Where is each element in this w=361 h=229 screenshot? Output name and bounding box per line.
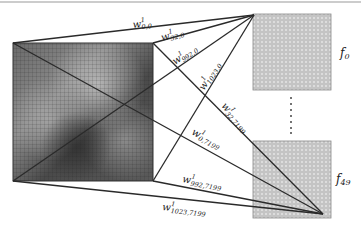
label-w-32-7199: w132,7199 [218, 99, 252, 136]
weight-connection-diagram: w10,0 w132,0 w1992,0 w11023,0 w132,7199 … [0, 0, 361, 229]
label-w-0-0: w10,0 [132, 15, 153, 32]
input-image [13, 43, 153, 181]
label-f0: f0 [339, 46, 350, 61]
label-w-0-7199: w10,7199 [189, 124, 224, 152]
label-w-992-7199: w1992,7199 [181, 171, 223, 193]
ellipsis-dots [290, 97, 292, 134]
feature-map-f49 [253, 141, 331, 218]
label-w-992-0: w1992,0 [169, 41, 200, 68]
label-f49: f49 [335, 172, 351, 187]
feature-map-f0 [253, 14, 331, 90]
label-w-32-0: w132,0 [159, 24, 185, 44]
label-w-1023-7199: w11023,7199 [162, 199, 207, 219]
